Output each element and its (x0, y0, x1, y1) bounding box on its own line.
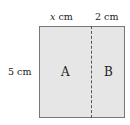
dashed-divider (91, 26, 92, 118)
width-label-b: 2 cm (95, 12, 118, 22)
width-label-a: x cm (50, 12, 73, 22)
region-a-label: A (61, 66, 70, 78)
variable-x: x (50, 11, 55, 22)
height-label: 5 cm (8, 67, 31, 77)
unit-cm: cm (58, 11, 72, 22)
region-b-label: B (104, 66, 113, 78)
